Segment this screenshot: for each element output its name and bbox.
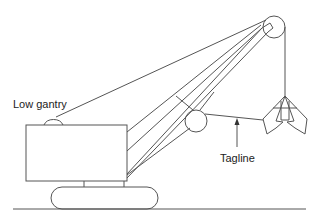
fairlead-sheave bbox=[185, 110, 207, 132]
boom-line-2 bbox=[127, 28, 262, 151]
boom-to-fairlead bbox=[127, 128, 190, 175]
boom-point-sheave bbox=[263, 16, 285, 38]
clamshell-bucket bbox=[263, 96, 307, 134]
tagline bbox=[205, 114, 263, 120]
tagline-label: Tagline bbox=[220, 153, 255, 164]
boom-line-3 bbox=[127, 25, 261, 132]
tagline-arrow-head bbox=[235, 118, 240, 125]
crane-diagram bbox=[0, 0, 322, 221]
cab-body bbox=[26, 125, 127, 181]
boom-pendant bbox=[56, 20, 266, 117]
crawler-track bbox=[51, 187, 158, 209]
low-gantry bbox=[44, 119, 63, 125]
low-gantry-label: Low gantry bbox=[13, 99, 67, 110]
